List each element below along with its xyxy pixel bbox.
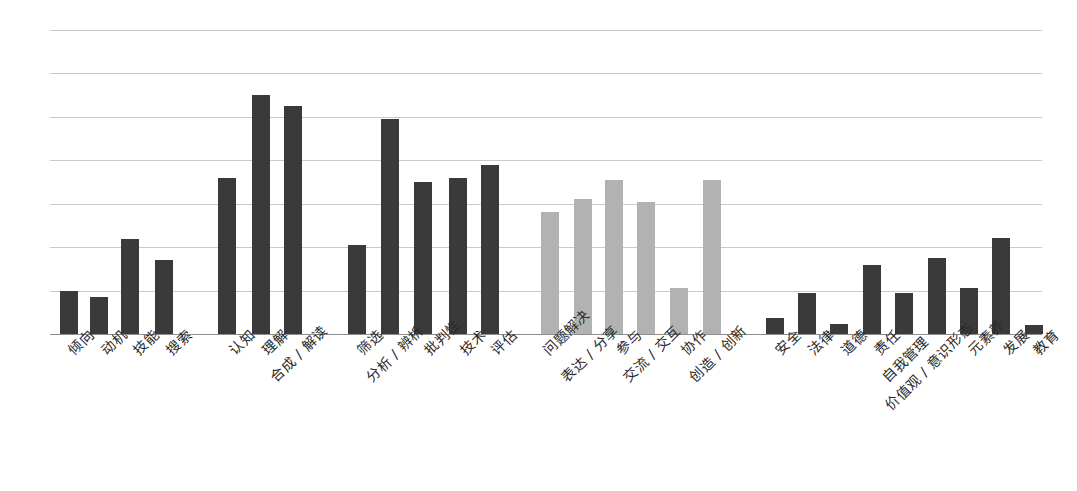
gridline [50, 160, 1042, 161]
bar[interactable] [830, 324, 848, 334]
gridline [50, 204, 1042, 205]
bar[interactable] [928, 258, 946, 334]
bar[interactable] [541, 212, 559, 334]
bar[interactable] [348, 245, 366, 334]
bar[interactable] [703, 180, 721, 334]
bar[interactable] [637, 202, 655, 334]
bar[interactable] [766, 318, 784, 334]
gridline [50, 30, 1042, 31]
bar[interactable] [121, 239, 139, 334]
bar[interactable] [155, 260, 173, 334]
bar[interactable] [449, 178, 467, 334]
bar[interactable] [605, 180, 623, 334]
gridline [50, 73, 1042, 74]
bar[interactable] [60, 291, 78, 334]
plot-area [50, 30, 1042, 334]
bar[interactable] [381, 119, 399, 334]
bar[interactable] [218, 178, 236, 334]
bar[interactable] [252, 95, 270, 334]
bar[interactable] [798, 293, 816, 334]
bar[interactable] [863, 265, 881, 334]
bar[interactable] [414, 182, 432, 334]
bar[interactable] [481, 165, 499, 334]
bar[interactable] [895, 293, 913, 334]
bar[interactable] [90, 297, 108, 334]
bar-chart: 倾向动机技能搜索认知理解合成 / 解读筛选分析 / 辨析批判性技术评估问题解决表… [0, 0, 1077, 491]
gridline [50, 117, 1042, 118]
bar[interactable] [284, 106, 302, 334]
